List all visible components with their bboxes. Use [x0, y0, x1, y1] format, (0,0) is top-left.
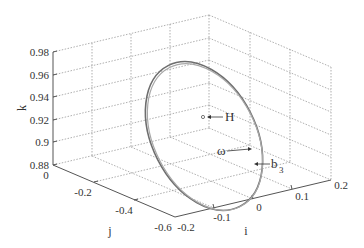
svg-text:-0.4: -0.4: [115, 204, 133, 216]
svg-text:-0.2: -0.2: [177, 221, 194, 233]
svg-text:0.94: 0.94: [30, 91, 50, 103]
svg-text:0.1: 0.1: [295, 190, 309, 202]
b3-subscript: 3: [279, 165, 284, 175]
h-point: [201, 115, 204, 118]
svg-text:0.92: 0.92: [30, 114, 49, 126]
svg-text:0.9: 0.9: [35, 136, 49, 148]
figure: 0.98 0.96 0.94 0.92 0.9 0.88 0 -0.2 -0.4…: [0, 0, 364, 248]
svg-text:-0.1: -0.1: [213, 211, 230, 223]
svg-text:0.96: 0.96: [30, 69, 50, 81]
plot-3d: 0.98 0.96 0.94 0.92 0.9 0.88 0 -0.2 -0.4…: [0, 0, 364, 248]
svg-text:0.2: 0.2: [334, 179, 348, 191]
svg-text:0: 0: [43, 169, 49, 181]
svg-text:0: 0: [256, 201, 262, 213]
j-axis: [53, 165, 175, 217]
axes: [53, 51, 331, 217]
b3-label: b: [271, 156, 278, 171]
j-axis-label: j: [107, 224, 111, 238]
svg-text:-0.2: -0.2: [74, 186, 91, 198]
k-tick-labels: 0.98 0.96 0.94 0.92 0.9 0.88: [30, 46, 50, 171]
k-axis-label: k: [15, 105, 29, 111]
i-axis-label: i: [244, 224, 248, 238]
h-label: H: [225, 109, 234, 124]
svg-text:-0.6: -0.6: [154, 221, 172, 233]
omega-label: ω: [217, 143, 226, 158]
grid-lines: [53, 15, 331, 208]
svg-text:0.98: 0.98: [30, 46, 50, 58]
